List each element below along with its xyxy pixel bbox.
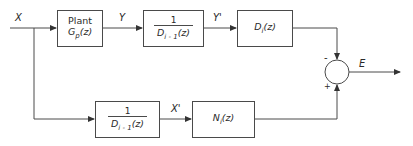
summing-junction <box>325 60 349 84</box>
signal-x-label: X <box>15 12 22 23</box>
denominator-model-block: Di(z) <box>237 10 293 47</box>
signal-e-label: E <box>359 58 365 69</box>
plus-sign: + <box>324 82 331 91</box>
prefilter-top-block: 1 Di - 1(z) <box>143 10 204 47</box>
signal-y-prime-label: Y' <box>213 12 222 23</box>
prefilter-top-fraction: 1 Di - 1(z) <box>154 15 193 43</box>
plant-block: Plant Gp(z) <box>57 10 103 47</box>
prefilter-bottom-block: 1 Di - 1(z) <box>95 101 160 138</box>
plant-transfer-function: Gp(z) <box>68 26 92 42</box>
minus-sign: - <box>324 52 328 63</box>
signal-y-label: Y <box>119 12 125 23</box>
denominator-model-tf: Di(z) <box>254 21 276 37</box>
numerator-model-tf: Ni(z) <box>213 112 234 128</box>
prefilter-bottom-fraction: 1 Di - 1(z) <box>108 106 147 134</box>
plant-title: Plant <box>68 15 92 26</box>
numerator-model-block: Ni(z) <box>192 101 255 138</box>
signal-x-prime-label: X' <box>171 103 181 114</box>
